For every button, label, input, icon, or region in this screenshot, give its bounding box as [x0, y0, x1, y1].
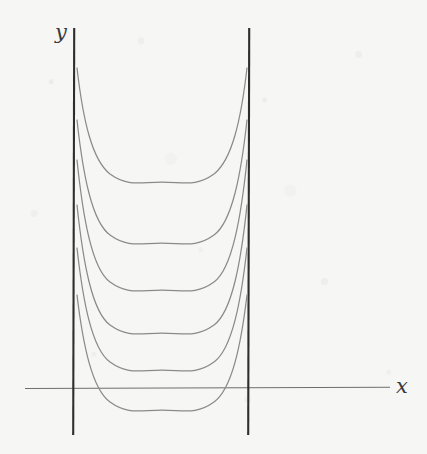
right-asymptote-line: [248, 28, 249, 435]
curve-3-path: [77, 160, 247, 291]
plot-svg: [0, 0, 427, 454]
curve-5-path: [77, 248, 247, 371]
figure-canvas: y x: [0, 0, 427, 454]
x-axis-label: x: [396, 376, 408, 397]
curve-1-path: [77, 68, 247, 183]
x-axis-line: [25, 387, 390, 388]
curve-4-path: [77, 205, 247, 334]
left-asymptote-line: [73, 28, 74, 435]
y-axis-label: y: [55, 22, 67, 43]
